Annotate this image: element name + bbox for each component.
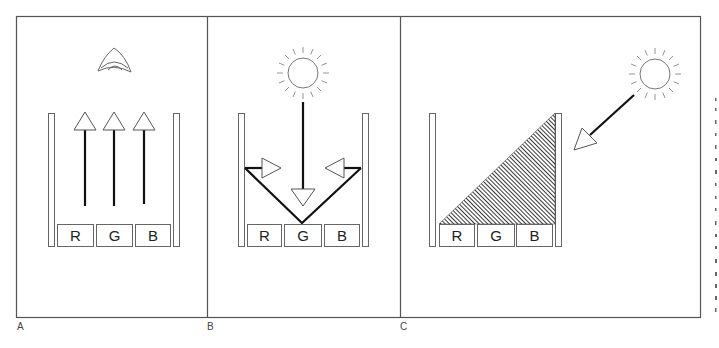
panel-a: R G B A	[17, 48, 180, 332]
eye-icon	[98, 48, 131, 72]
subpixel-r-label: R	[70, 227, 81, 244]
subpixel-row: R G B	[248, 225, 360, 247]
emission-arrows	[74, 112, 155, 206]
figure-canvas: R G B A	[0, 0, 719, 348]
panel-c: R G B C	[400, 48, 681, 332]
arrow-head-right-icon	[262, 158, 281, 178]
well-wall-left	[49, 114, 55, 247]
subpixel-g-label: G	[297, 227, 309, 244]
arrow-head-left-icon	[325, 158, 344, 178]
well-wall-left	[239, 114, 245, 247]
subpixel-b-label: B	[148, 227, 158, 244]
subpixel-g-label: G	[109, 227, 121, 244]
subpixel-r-label: R	[452, 227, 463, 244]
incident-ray	[590, 95, 634, 135]
cropped-text-fragments	[715, 98, 717, 312]
shadow-region	[439, 113, 555, 224]
subpixel-b-label: B	[337, 227, 347, 244]
arrow-head-up-icon	[74, 112, 96, 130]
subpixel-r-label: R	[259, 227, 270, 244]
panel-label-b: B	[207, 321, 214, 332]
subpixel-b-label: B	[529, 227, 539, 244]
panel-label-c: C	[400, 321, 407, 332]
well-wall-right	[174, 114, 180, 247]
panel-b: R G B B	[207, 47, 369, 332]
sun-icon	[629, 48, 681, 100]
subpixel-g-label: G	[490, 227, 502, 244]
well-wall-right	[363, 114, 369, 247]
arrow-head-up-icon	[103, 112, 125, 130]
well-wall-left	[430, 114, 436, 247]
well-wall-right	[556, 114, 562, 247]
arrow-head-down-icon	[291, 189, 315, 206]
subpixel-row: R G B	[58, 225, 171, 247]
sun-icon	[277, 47, 329, 99]
panel-label-a: A	[17, 321, 24, 332]
arrow-head-up-icon	[133, 112, 155, 130]
subpixel-row: R G B	[440, 225, 553, 247]
